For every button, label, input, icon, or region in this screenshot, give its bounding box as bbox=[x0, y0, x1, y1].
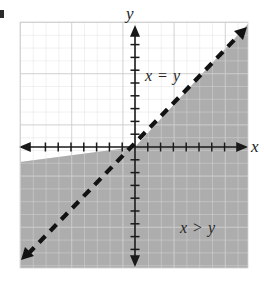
shaded-region-label: x > y bbox=[180, 220, 216, 236]
y-axis-label: y bbox=[126, 5, 134, 22]
figure-canvas: y x x = y x > y bbox=[0, 0, 264, 284]
boundary-line-label: x = y bbox=[145, 68, 181, 84]
x-axis-label: x bbox=[251, 138, 259, 155]
coordinate-plane-graph bbox=[0, 0, 264, 284]
